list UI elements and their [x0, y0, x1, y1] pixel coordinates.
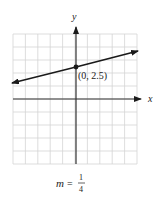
intercept-point	[74, 65, 79, 70]
slope-equals: =	[67, 178, 73, 189]
slope-numerator: 1	[79, 173, 83, 182]
data-line	[76, 51, 138, 67]
point-label: (0, 2.5)	[78, 70, 107, 82]
slope-variable: m	[56, 177, 64, 189]
coordinate-graph: y x (0, 2.5) m = 1 4	[0, 0, 162, 202]
data-line-left	[12, 67, 76, 83]
slope-denominator: 4	[79, 185, 83, 194]
x-axis-label: x	[147, 93, 153, 104]
y-axis-label: y	[71, 11, 77, 22]
